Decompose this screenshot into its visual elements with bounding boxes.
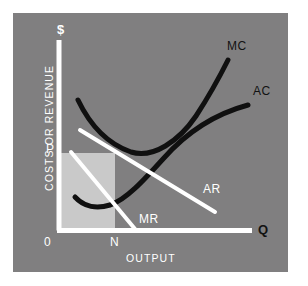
mc-curve-label: MC xyxy=(227,40,247,52)
n-tick-label: N xyxy=(110,236,119,248)
y-axis-title: COSTS OR REVENUE xyxy=(43,71,55,191)
dollar-axis-symbol: $ xyxy=(57,23,65,36)
chart-panel: $ Q 0 N P MC AC AR MR OUTPUT COSTS OR RE… xyxy=(13,13,288,272)
quantity-axis-symbol: Q xyxy=(258,223,269,236)
origin-label: 0 xyxy=(44,236,51,248)
economics-chart-figure: $ Q 0 N P MC AC AR MR OUTPUT COSTS OR RE… xyxy=(0,0,308,286)
mc-curve xyxy=(78,60,228,154)
ar-line-label: AR xyxy=(203,183,221,195)
x-axis-title: OUTPUT xyxy=(126,253,176,264)
profit-rectangle-shade xyxy=(59,153,115,230)
mr-line-label: MR xyxy=(139,213,159,225)
ac-curve-label: AC xyxy=(253,85,271,97)
